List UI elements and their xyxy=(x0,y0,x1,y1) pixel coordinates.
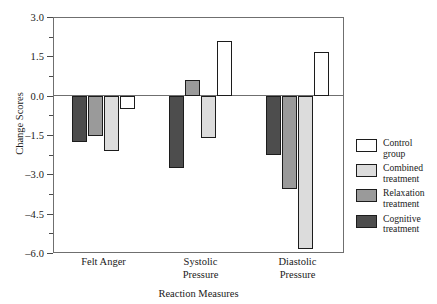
x-axis-title: Reaction Measures xyxy=(53,288,344,299)
y-tick-label: –6.0 xyxy=(25,248,44,259)
x-axis-label-line: Diastolic xyxy=(279,256,317,269)
legend-label-line: treatment xyxy=(383,174,423,185)
y-tick-label: 3.0 xyxy=(31,12,44,23)
legend-item: Controlgroup xyxy=(356,138,436,159)
bar-chart: 3.01.50.0–1.5–3.0–4.5–6.0 Change Scores … xyxy=(0,0,437,304)
x-axis-label: Felt Anger xyxy=(81,256,126,269)
bar xyxy=(169,96,185,168)
legend-label-line: Control xyxy=(383,138,412,149)
legend-label-line: group xyxy=(383,149,412,160)
y-tick-label: –3.0 xyxy=(25,169,44,180)
bar xyxy=(88,96,104,137)
legend-item: Cognitivetreatment xyxy=(356,214,436,235)
x-axis-label-line: Felt Anger xyxy=(81,256,126,269)
legend-swatch-cognitive xyxy=(356,215,377,228)
legend-label-line: treatment xyxy=(383,224,421,235)
legend-swatch-combined xyxy=(356,164,377,177)
legend-label-line: treatment xyxy=(383,199,425,210)
y-tick-label: 1.5 xyxy=(31,51,44,62)
bar xyxy=(314,52,330,95)
legend-item: Combinedtreatment xyxy=(356,163,436,184)
bar xyxy=(185,80,201,96)
y-tick-label: 0.0 xyxy=(31,90,44,101)
bar xyxy=(72,96,88,142)
x-axis-label-line: Pressure xyxy=(183,269,219,282)
x-axis-label-line: Pressure xyxy=(279,269,317,282)
legend-item-label: Combinedtreatment xyxy=(383,163,423,184)
legend-swatch-control xyxy=(356,139,377,152)
x-axis-label-line: Systolic xyxy=(183,256,219,269)
x-axis-labels: Felt AngerSystolicPressureDiastolicPress… xyxy=(53,256,344,290)
bar xyxy=(298,96,314,249)
legend-swatch-relaxation xyxy=(356,189,377,202)
x-axis-label: SystolicPressure xyxy=(183,256,219,281)
x-axis-label: DiastolicPressure xyxy=(279,256,317,281)
bar xyxy=(120,96,136,109)
bar xyxy=(266,96,282,155)
legend-item-label: Controlgroup xyxy=(383,138,412,159)
y-tick-label: –4.5 xyxy=(25,208,44,219)
bar xyxy=(201,96,217,138)
legend-item-label: Relaxationtreatment xyxy=(383,188,425,209)
bar xyxy=(282,96,298,189)
bar xyxy=(217,41,233,96)
legend-item-label: Cognitivetreatment xyxy=(383,214,421,235)
y-tick-label: –1.5 xyxy=(25,130,44,141)
y-axis-title: Change Scores xyxy=(14,64,25,184)
legend-item: Relaxationtreatment xyxy=(356,188,436,209)
y-tick-major xyxy=(47,253,53,254)
legend: ControlgroupCombinedtreatmentRelaxationt… xyxy=(356,138,436,239)
bars-layer xyxy=(53,17,344,253)
bar xyxy=(104,96,120,151)
y-axis-ticks: 3.01.50.0–1.5–3.0–4.5–6.0 xyxy=(0,17,53,253)
